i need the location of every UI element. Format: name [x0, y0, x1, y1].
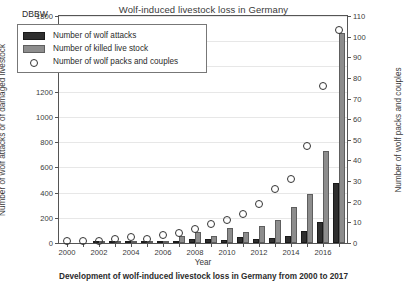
y-right-tick [347, 99, 351, 100]
bar-killed-livestock [243, 232, 249, 243]
point-wolf-packs [319, 82, 327, 90]
y-left-tick [55, 218, 59, 219]
y-right-tick-label: 90 [353, 53, 361, 62]
bar-killed-livestock [227, 228, 233, 243]
y-left-tick [55, 142, 59, 143]
point-wolf-packs [143, 235, 151, 243]
y-right-tick-label: 20 [353, 197, 361, 206]
point-wolf-packs [255, 200, 263, 208]
y-right-tick-label: 100 [353, 32, 366, 41]
x-tick-label: 2000 [59, 248, 76, 257]
point-wolf-packs [191, 225, 199, 233]
point-wolf-packs [159, 231, 167, 239]
figure-caption: Development of wolf-induced livestock lo… [0, 272, 407, 281]
x-tick [323, 243, 324, 247]
bar-killed-livestock [307, 194, 313, 243]
x-tick-label: 2004 [123, 248, 140, 257]
legend-row: Number of wolf attacks [23, 29, 200, 42]
y-left-tick-label: 1000 [36, 112, 53, 121]
x-tick [291, 243, 292, 247]
bar-killed-livestock [259, 226, 265, 243]
y-left-tick [55, 167, 59, 168]
bar-killed-livestock [179, 236, 185, 243]
y-left-axis-title: Number of wolf attacks or of damaged liv… [0, 25, 7, 235]
x-tick [147, 243, 148, 247]
bar-killed-livestock [195, 232, 201, 243]
legend-header: DBBW [22, 9, 48, 19]
point-wolf-packs [303, 142, 311, 150]
open-circle-marker-icon [23, 58, 45, 66]
y-right-tick-label: 70 [353, 94, 361, 103]
y-left-tick [55, 243, 59, 244]
x-tick [115, 243, 116, 247]
point-wolf-packs [127, 233, 135, 241]
bar-killed-livestock [131, 241, 137, 243]
bar-killed-livestock [275, 220, 281, 243]
point-wolf-packs [79, 237, 87, 245]
x-tick [179, 243, 180, 247]
y-right-tick [347, 140, 351, 141]
gridline [59, 16, 347, 17]
point-wolf-packs [63, 237, 71, 245]
x-tick [275, 243, 276, 247]
y-right-tick-label: 10 [353, 218, 361, 227]
gridline [59, 218, 347, 219]
y-left-tick-label: 0 [49, 239, 53, 248]
y-right-axis-title: Number of wolf packs and couples [394, 40, 403, 220]
y-left-tick [55, 92, 59, 93]
y-right-tick [347, 222, 351, 223]
y-right-tick-label: 110 [353, 12, 365, 21]
point-wolf-packs [239, 210, 247, 218]
y-right-tick-label: 50 [353, 135, 361, 144]
dark-bar-swatch-icon [23, 32, 45, 40]
chart-legend: Number of wolf attacks Number of killed … [17, 24, 207, 73]
figure-container: Wolf-induced livestock loss in Germany N… [0, 0, 407, 291]
x-tick [211, 243, 212, 247]
x-tick-label: 2010 [219, 248, 236, 257]
x-tick-label: 2012 [251, 248, 268, 257]
point-wolf-packs [175, 229, 183, 237]
y-left-tick-label: 800 [40, 138, 53, 147]
bar-killed-livestock [291, 207, 297, 243]
y-right-tick [347, 181, 351, 182]
point-wolf-packs [271, 185, 279, 193]
x-tick [339, 243, 340, 247]
y-left-tick [55, 193, 59, 194]
y-right-tick [347, 78, 351, 79]
y-right-tick-label: 80 [353, 73, 361, 82]
x-tick [195, 243, 196, 247]
y-left-tick-label: 200 [40, 213, 53, 222]
point-wolf-packs [95, 237, 103, 245]
x-tick [227, 243, 228, 247]
bar-killed-livestock [339, 33, 345, 243]
point-wolf-packs [207, 220, 215, 228]
x-tick [243, 243, 244, 247]
y-right-tick [347, 243, 351, 244]
gridline [59, 92, 347, 93]
legend-label-killed: Number of killed live stock [53, 44, 148, 53]
y-right-tick [347, 119, 351, 120]
y-right-tick [347, 37, 351, 38]
y-right-tick [347, 16, 351, 17]
x-tick [163, 243, 164, 247]
x-tick-label: 2008 [187, 248, 204, 257]
y-right-tick [347, 57, 351, 58]
y-left-tick [55, 117, 59, 118]
gridline [59, 193, 347, 194]
y-left-tick [55, 16, 59, 17]
y-left-tick-label: 1200 [36, 87, 53, 96]
x-tick [131, 243, 132, 247]
x-axis-title: Year [58, 258, 348, 267]
x-tick [259, 243, 260, 247]
gridline [59, 167, 347, 168]
legend-label-attacks: Number of wolf attacks [53, 31, 136, 40]
bar-killed-livestock [323, 151, 329, 243]
point-wolf-packs [111, 235, 119, 243]
gray-bar-swatch-icon [23, 45, 45, 53]
gridline [59, 117, 347, 118]
x-tick [307, 243, 308, 247]
y-right-tick-label: 40 [353, 156, 361, 165]
y-right-tick-label: 0 [353, 239, 357, 248]
legend-label-packs: Number of wolf packs and couples [53, 57, 178, 66]
y-right-tick [347, 160, 351, 161]
